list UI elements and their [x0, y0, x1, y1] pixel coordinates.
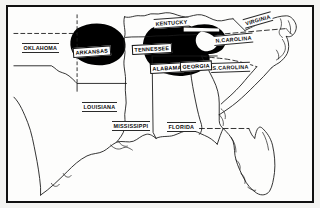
outline-texas-east: [14, 97, 41, 195]
border-florida-north: [217, 128, 255, 144]
state-label-florida: FLORIDA: [167, 122, 196, 132]
outline-chesapeake-detail: [279, 19, 292, 38]
coastline-gulf-panhandle: [156, 130, 217, 144]
shaded-area-arkansas: [70, 23, 125, 65]
state-label-georgia: GEORGIA: [180, 60, 213, 72]
state-label-mississippi: MISSISSIPPI: [112, 121, 150, 131]
coastline-delta-detail: [51, 141, 132, 186]
outline-outer-banks: [276, 39, 285, 60]
distribution-map-figure: OKLAHOMA ARKANSAS TENNESSEE KENTUCKY VIR…: [0, 0, 320, 208]
state-label-louisiana: LOUISIANA: [82, 102, 117, 112]
map-border-frame: OKLAHOMA ARKANSAS TENNESSEE KENTUCKY VIR…: [6, 5, 314, 203]
outline-ncarolina-coast: [272, 36, 289, 67]
state-label-s-carolina: S.CAROLINA: [211, 62, 250, 73]
outline-scarolina-coast: [219, 68, 271, 115]
border-louisiana-mississippi: [117, 83, 127, 142]
state-label-oklahoma: OKLAHOMA: [22, 43, 59, 53]
state-label-tennessee: TENNESSEE: [132, 43, 172, 55]
map-canvas: [8, 7, 312, 201]
outline-oklahoma-texas: [14, 66, 77, 91]
